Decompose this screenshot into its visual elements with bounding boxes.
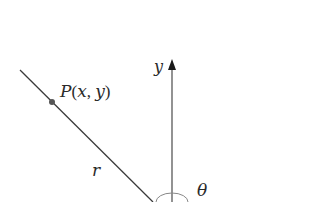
angle-label: θ	[197, 180, 207, 200]
y-axis-arrow-icon	[168, 59, 176, 70]
radius-label: r	[92, 160, 101, 180]
point-label: P(x, y)	[59, 81, 111, 101]
y-axis-label: y	[153, 57, 164, 76]
point-y: y	[94, 81, 105, 101]
point-name: P	[59, 81, 72, 101]
polar-diagram: y P(x, y) r θ	[0, 0, 330, 202]
paren-close: )	[105, 82, 111, 101]
point-x: x	[77, 81, 87, 101]
comma: ,	[87, 82, 96, 101]
point-p	[49, 99, 55, 105]
